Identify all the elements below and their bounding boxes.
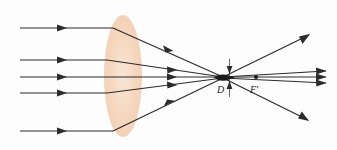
ray-3-axial	[20, 74, 327, 81]
ray-3-incoming-arrowhead	[57, 74, 67, 81]
ray-3-refracted-arrowhead	[167, 74, 177, 81]
label-focal-point: F'	[249, 84, 259, 95]
focal-point-dot	[254, 75, 258, 79]
ray-4-outgoing	[223, 78, 326, 83]
caustic-core	[214, 76, 234, 80]
ray-2-outgoing-arrowhead	[316, 68, 327, 75]
focal-point-marker	[254, 75, 258, 79]
ray-2-incoming-arrowhead	[57, 57, 67, 64]
blur-circle-caustic	[214, 74, 234, 80]
figure-root: D F'	[0, 0, 337, 150]
ray-3-outgoing-arrowhead	[316, 74, 327, 81]
ray-2-refracted-arrowhead	[167, 67, 178, 74]
ray-1-outgoing-arrowhead	[299, 34, 310, 44]
ray-2	[20, 57, 327, 78]
lens-ellipse	[104, 15, 142, 137]
ray-4	[20, 78, 327, 97]
ray-4-refracted-arrowhead	[167, 82, 178, 89]
lens	[104, 15, 142, 137]
ray-5-outgoing-arrowhead	[298, 112, 309, 122]
ray-1-incoming-arrowhead	[57, 25, 67, 32]
ray-diagram-canvas: D F'	[0, 0, 337, 150]
label-diameter: D	[216, 84, 225, 95]
ray-4-outgoing-arrowhead	[316, 79, 327, 86]
ray-1-top	[20, 25, 310, 78]
ray-5-outgoing	[223, 78, 308, 120]
ray-4-incoming-arrowhead	[57, 90, 67, 97]
ray-2-outgoing	[223, 71, 326, 77]
ray-1-outgoing	[223, 35, 309, 77]
ray-5-incoming-arrowhead	[57, 128, 67, 135]
ray-5-bottom	[20, 78, 309, 135]
ray-5-refracted-arrowhead	[164, 100, 175, 107]
